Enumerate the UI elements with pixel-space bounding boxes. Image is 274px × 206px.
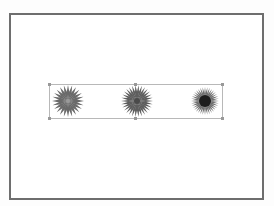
flower-center [66, 99, 70, 103]
flower-center [134, 98, 140, 104]
flower-image-3[interactable] [190, 86, 220, 116]
flower-center [199, 95, 211, 107]
selection-handle-tr[interactable] [221, 83, 224, 86]
flower-image-1[interactable] [51, 84, 85, 118]
selection-handle-br[interactable] [221, 117, 224, 120]
flower-image-2[interactable] [120, 84, 154, 118]
